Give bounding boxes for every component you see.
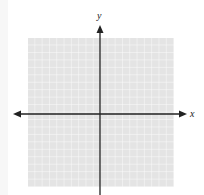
y-axis-label: y xyxy=(96,10,102,21)
grid-area xyxy=(28,38,174,187)
x-axis-right-arrow-icon xyxy=(179,111,187,118)
x-axis-label: x xyxy=(189,108,195,119)
y-axis-up-arrow-icon xyxy=(97,25,104,33)
coordinate-plane: x y xyxy=(0,0,204,195)
x-axis-left-arrow-icon xyxy=(13,111,21,118)
